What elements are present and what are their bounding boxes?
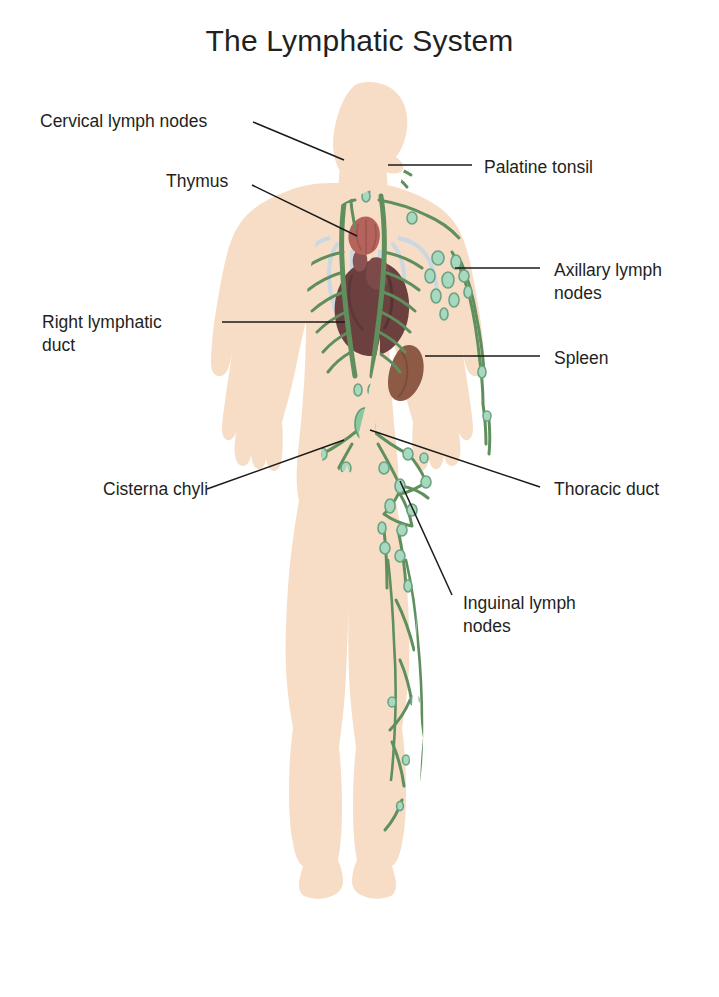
label-axillary-lymph-nodes: Axillary lymph nodes xyxy=(554,259,662,305)
label-thoracic-duct: Thoracic duct xyxy=(554,478,659,501)
label-inguinal-lymph-nodes: Inguinal lymph nodes xyxy=(463,592,576,638)
label-palatine-tonsil: Palatine tonsil xyxy=(484,156,593,179)
label-cisterna-chyli: Cisterna chyli xyxy=(103,478,208,501)
body-silhouette xyxy=(211,82,484,899)
label-spleen: Spleen xyxy=(554,347,609,370)
label-cervical-lymph-nodes: Cervical lymph nodes xyxy=(40,110,207,133)
label-right-lymphatic-duct: Right lymphatic duct xyxy=(42,311,162,357)
diagram-canvas: The Lymphatic System xyxy=(0,0,719,997)
leader-cervical xyxy=(253,122,344,160)
label-thymus: Thymus xyxy=(166,170,228,193)
